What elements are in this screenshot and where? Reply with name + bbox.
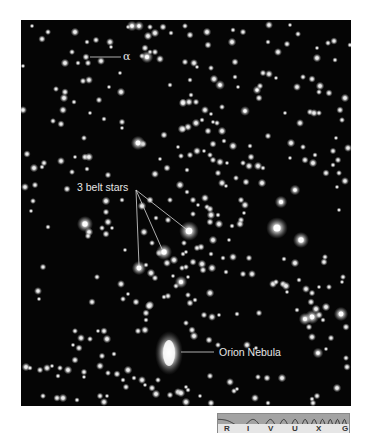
- star: [94, 274, 100, 280]
- star: [224, 184, 229, 189]
- star: [206, 218, 213, 225]
- star: [37, 297, 42, 302]
- star: [88, 111, 93, 116]
- star: [274, 48, 282, 56]
- star: [57, 120, 64, 127]
- star: [99, 225, 105, 231]
- star: [82, 53, 89, 60]
- star: [201, 106, 209, 114]
- star: [97, 57, 105, 65]
- star: [30, 198, 36, 204]
- star: [193, 99, 200, 106]
- star: [215, 170, 222, 177]
- bright-star-core: [339, 312, 344, 317]
- star: [88, 298, 95, 305]
- star: [308, 75, 315, 82]
- star: [332, 57, 338, 63]
- star: [21, 106, 27, 114]
- star: [312, 152, 318, 158]
- star: [206, 289, 215, 298]
- bright-star-core: [218, 83, 221, 86]
- star: [158, 157, 163, 162]
- star: [81, 135, 87, 141]
- star: [291, 259, 300, 268]
- star: [195, 65, 200, 70]
- star: [220, 255, 226, 261]
- star: [344, 144, 351, 152]
- star: [308, 333, 316, 341]
- belt-stars-label: 3 belt stars: [77, 182, 128, 193]
- star: [251, 394, 259, 402]
- star: [198, 394, 203, 399]
- star: [236, 220, 244, 228]
- star: [102, 230, 109, 237]
- star: [153, 215, 159, 221]
- band-label-i: I: [247, 424, 249, 433]
- star: [210, 157, 217, 164]
- star: [216, 158, 224, 166]
- star: [100, 327, 107, 334]
- star: [168, 30, 174, 36]
- star: [300, 74, 306, 80]
- star: [165, 217, 172, 224]
- star: [96, 97, 103, 104]
- star: [147, 24, 153, 30]
- star: [53, 86, 59, 92]
- star: [209, 236, 218, 245]
- star: [87, 336, 93, 342]
- star: [77, 334, 85, 342]
- star: [123, 384, 130, 391]
- star: [183, 320, 189, 326]
- star: [117, 88, 126, 97]
- band-label-u: U: [292, 424, 298, 433]
- star: [340, 274, 346, 280]
- star: [177, 389, 186, 398]
- star: [241, 201, 249, 209]
- star: [281, 256, 287, 262]
- star: [40, 393, 46, 399]
- star: [205, 336, 212, 343]
- bright-star-core: [298, 237, 303, 242]
- star: [176, 181, 185, 190]
- star: [187, 77, 193, 83]
- star: [295, 31, 301, 37]
- star: [245, 162, 253, 170]
- star: [307, 298, 314, 305]
- star: [316, 82, 325, 91]
- star: [283, 111, 288, 116]
- star: [181, 240, 187, 246]
- star: [340, 280, 345, 285]
- star: [69, 49, 75, 55]
- star: [265, 21, 273, 29]
- star: [296, 119, 304, 127]
- star: [45, 29, 51, 35]
- star: [302, 285, 310, 293]
- bright-star-core: [145, 55, 149, 59]
- star: [69, 169, 75, 175]
- star: [309, 159, 318, 168]
- star: [185, 387, 191, 393]
- star: [314, 393, 321, 400]
- star: [167, 82, 173, 88]
- star: [119, 197, 125, 203]
- orion-nebula-label: Orion Nebula: [219, 347, 281, 358]
- star: [334, 136, 339, 141]
- star: [194, 245, 201, 252]
- star: [207, 373, 214, 380]
- star: [75, 344, 82, 351]
- star: [335, 185, 340, 190]
- star: [322, 169, 329, 176]
- star: [103, 209, 110, 216]
- star: [342, 323, 349, 330]
- star: [71, 28, 80, 37]
- star: [61, 59, 70, 68]
- alpha-label: α: [123, 51, 130, 62]
- star: [151, 29, 160, 38]
- star: [192, 297, 198, 303]
- star: [265, 400, 271, 406]
- star: [343, 355, 349, 361]
- star: [71, 343, 76, 348]
- star: [159, 23, 166, 30]
- star: [246, 255, 253, 262]
- star: [120, 377, 126, 383]
